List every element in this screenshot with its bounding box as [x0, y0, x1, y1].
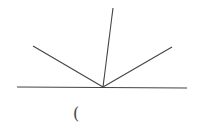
right-ray	[103, 47, 172, 87]
upper-ray	[103, 8, 113, 87]
baseline	[17, 87, 187, 88]
left-ray	[33, 46, 103, 87]
caption-text: (	[73, 106, 79, 122]
angle-diagram	[0, 0, 202, 129]
